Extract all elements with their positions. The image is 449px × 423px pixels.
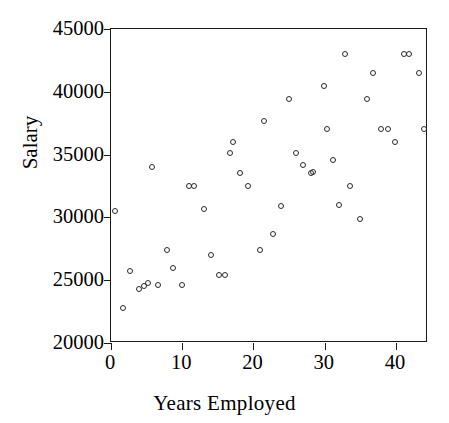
data-point (324, 126, 330, 132)
data-point (155, 282, 161, 288)
data-point (300, 162, 306, 168)
data-point (406, 51, 412, 57)
data-point (201, 206, 207, 212)
data-point (127, 268, 133, 274)
y-axis-tick (104, 155, 111, 156)
data-point (270, 231, 276, 237)
data-point (145, 280, 151, 286)
data-point (237, 170, 243, 176)
y-axis-tick (104, 92, 111, 93)
plot-area (110, 28, 427, 342)
x-axis-tick-label: 10 (171, 352, 192, 373)
x-axis-tick (111, 343, 112, 350)
y-axis-tick-label: 25000 (0, 269, 104, 290)
data-point (385, 126, 391, 132)
x-axis-tick (325, 343, 326, 350)
data-point (120, 305, 126, 311)
data-point (170, 265, 176, 271)
y-axis-tick (104, 217, 111, 218)
y-axis-tick (104, 29, 111, 30)
data-point (149, 164, 155, 170)
data-point (261, 118, 267, 124)
data-point (278, 203, 284, 209)
data-point (342, 51, 348, 57)
x-axis-tick-label: 30 (313, 352, 334, 373)
data-point (370, 70, 376, 76)
data-point (191, 183, 197, 189)
data-point (112, 208, 118, 214)
data-point (310, 169, 316, 175)
data-point (286, 96, 292, 102)
scatter-chart-figure: 200002500030000350004000045000 Salary 01… (0, 0, 449, 423)
data-point (321, 83, 327, 89)
data-point (357, 216, 363, 222)
x-axis-tick-label: 0 (105, 352, 115, 373)
x-axis-tick (182, 343, 183, 350)
data-point (257, 247, 263, 253)
data-point (421, 126, 427, 132)
data-point (330, 157, 336, 163)
y-axis-tick-label: 20000 (0, 332, 104, 353)
x-axis-tick-label: 40 (385, 352, 406, 373)
y-axis-tick (104, 343, 111, 344)
x-axis-title: Years Employed (0, 391, 449, 416)
data-point (378, 126, 384, 132)
x-axis-tick-label: 20 (242, 352, 263, 373)
data-point (179, 282, 185, 288)
data-point (222, 272, 228, 278)
x-axis-tick-labels: 010203040 (0, 352, 449, 380)
data-point (336, 202, 342, 208)
data-point (293, 150, 299, 156)
data-point (227, 150, 233, 156)
y-axis-tick-label: 35000 (0, 144, 104, 165)
data-point (245, 183, 251, 189)
data-point (416, 70, 422, 76)
data-point (208, 252, 214, 258)
data-point (364, 96, 370, 102)
y-axis-tick (104, 280, 111, 281)
y-axis-tick-label: 40000 (0, 81, 104, 102)
data-point (230, 139, 236, 145)
y-axis-title: Salary (18, 78, 43, 208)
x-axis-tick (396, 343, 397, 350)
y-axis-tick-label: 45000 (0, 18, 104, 39)
y-axis-tick-label: 30000 (0, 206, 104, 227)
data-point (164, 247, 170, 253)
data-point (347, 183, 353, 189)
x-axis-tick (253, 343, 254, 350)
data-point (392, 139, 398, 145)
